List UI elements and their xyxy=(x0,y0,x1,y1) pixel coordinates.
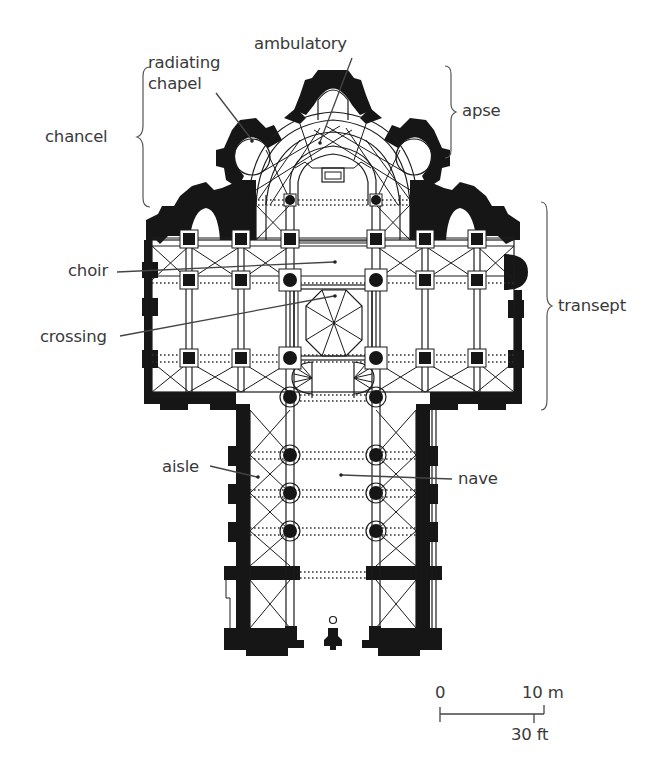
nave-structure xyxy=(224,400,442,656)
radiating-chapel-label-line1: radiating xyxy=(148,52,220,73)
aisle-label: aisle xyxy=(162,457,199,477)
crossing-label: crossing xyxy=(40,327,107,347)
choir-label: choir xyxy=(68,261,108,281)
square-piers xyxy=(180,230,486,367)
nave-label: nave xyxy=(458,469,498,489)
chancel-label: chancel xyxy=(45,127,108,147)
scale-bar xyxy=(440,705,544,723)
scale-metric-label: 10 m xyxy=(522,683,564,703)
cathedral-floor-plan xyxy=(0,0,665,757)
scale-zero-label: 0 xyxy=(435,683,445,703)
radiating-chapel-label: radiating chapel xyxy=(148,52,220,94)
transept-label: transept xyxy=(558,296,626,316)
radiating-chapel-label-line2: chapel xyxy=(148,73,220,94)
apse-structure xyxy=(216,70,450,240)
chancel-bays xyxy=(256,194,410,240)
scale-imperial-label: 30 ft xyxy=(511,725,548,745)
ambulatory-label: ambulatory xyxy=(254,34,347,54)
apse-label: apse xyxy=(462,101,501,121)
